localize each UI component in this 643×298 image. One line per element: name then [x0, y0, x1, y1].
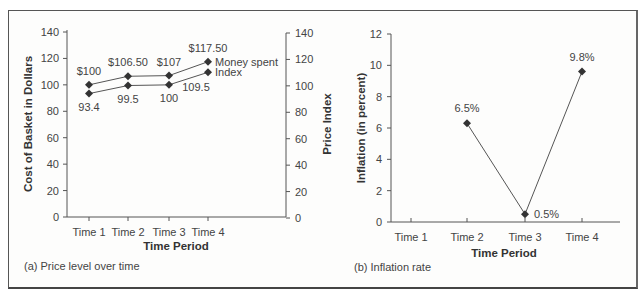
y2-tick-label: 80	[295, 106, 307, 118]
data-point-marker	[578, 68, 586, 76]
data-label: $106.50	[108, 56, 148, 68]
data-label: 99.5	[117, 93, 138, 105]
x-tick-label: Time 3	[152, 226, 185, 238]
data-label: $117.50	[189, 42, 228, 54]
x-tick-label: Time 1	[72, 226, 105, 238]
y-tick-label: 20	[47, 185, 59, 197]
y-tick-label: 120	[41, 52, 59, 64]
y-tick-label: 0	[376, 216, 382, 228]
data-point-marker	[463, 119, 471, 127]
data-point-marker	[124, 72, 132, 80]
y2-tick-label: 20	[295, 186, 307, 198]
y-tick-label: 8	[376, 91, 382, 103]
y2-tick-label: 140	[295, 27, 313, 39]
data-point-marker	[165, 81, 173, 89]
x-tick-label: Time 4	[565, 231, 598, 243]
data-label: $107	[157, 56, 181, 68]
data-point-marker	[204, 58, 212, 66]
y2-tick-label: 0	[295, 212, 301, 224]
x-tick-label: Time 1	[394, 231, 427, 243]
y-tick-label: 4	[376, 153, 382, 165]
legend-label-index: Index	[215, 66, 242, 78]
data-label: 6.5%	[454, 102, 479, 114]
x-axis-title: Time Period	[471, 247, 537, 259]
data-label: 109.5	[182, 81, 210, 93]
y-tick-label: 60	[47, 132, 59, 144]
data-label: $100	[77, 65, 101, 77]
y-tick-label: 140	[41, 26, 59, 38]
data-point-marker	[85, 81, 93, 89]
x-tick-label: Time 2	[450, 231, 483, 243]
y-tick-label: 80	[47, 105, 59, 117]
y2-axis-title: Price Index	[321, 93, 333, 155]
data-label: 93.4	[78, 101, 99, 113]
data-point-marker	[204, 68, 212, 76]
y-tick-label: 100	[41, 79, 59, 91]
data-point-marker	[165, 72, 173, 80]
x-tick-label: Time 2	[111, 226, 144, 238]
x-tick-label: Time 4	[191, 226, 224, 238]
data-label: 9.8%	[569, 51, 594, 63]
y-tick-label: 12	[370, 28, 382, 40]
y-axis-title: Cost of Basket in Dollars	[22, 56, 34, 192]
x-tick-label: Time 3	[508, 231, 541, 243]
caption-b: (b) Inflation rate	[354, 261, 431, 273]
x-axis-title: Time Period	[143, 240, 209, 252]
chart-price-level: 002020404060608080100100120120140140Time…	[22, 26, 333, 272]
y-tick-label: 6	[376, 122, 382, 134]
y-tick-label: 40	[47, 158, 59, 170]
y-tick-label: 10	[370, 59, 382, 71]
y2-tick-label: 40	[295, 159, 307, 171]
data-point-marker	[124, 82, 132, 90]
y2-tick-label: 100	[295, 80, 313, 92]
caption-a: (a) Price level over time	[24, 260, 140, 272]
chart-inflation-rate: 024681012Time 1Time 2Time 3Time 4 6.5%0.…	[354, 28, 620, 273]
y-tick-label: 2	[376, 185, 382, 197]
y-axis-title: Inflation (in percent)	[355, 73, 367, 184]
series-line-inflation	[467, 72, 582, 215]
y2-tick-label: 120	[295, 53, 313, 65]
data-label: 0.5%	[534, 208, 559, 220]
data-label: 100	[160, 92, 178, 104]
data-point-marker	[521, 210, 529, 218]
data-point-marker	[85, 90, 93, 98]
y-tick-label: 0	[53, 211, 59, 223]
y2-tick-label: 60	[295, 133, 307, 145]
figure-svg: 002020404060608080100100120120140140Time…	[0, 0, 643, 298]
